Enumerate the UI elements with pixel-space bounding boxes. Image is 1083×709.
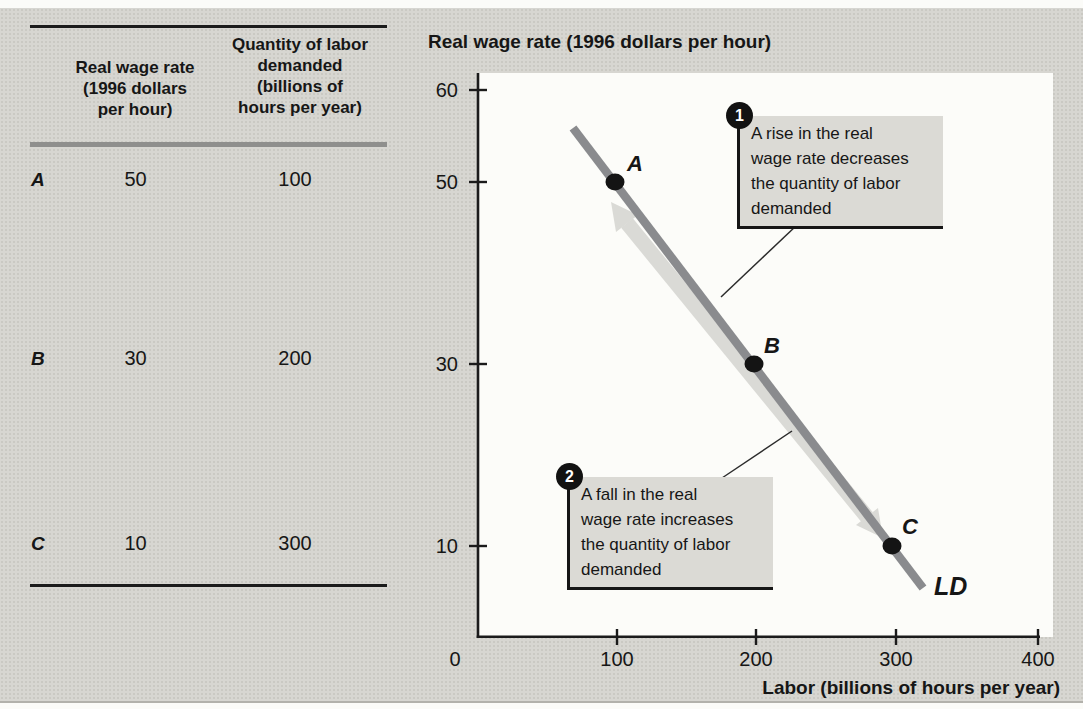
- chart-graphics: [0, 0, 1083, 709]
- y-tick-label: 50: [408, 169, 458, 195]
- point-label-C: C: [895, 514, 925, 540]
- y-tick-label: 30: [408, 351, 458, 377]
- callout-1-text-line: A rise in the real: [751, 121, 943, 146]
- y-tick-label: 60: [408, 77, 458, 103]
- x-axis-title: Labor (billions of hours per year): [700, 677, 1060, 699]
- figure-canvas: Real wage rate (1996 dollars per hour) Q…: [0, 0, 1083, 709]
- callout-2: 2 A fall in the real wage rate increases…: [567, 477, 773, 590]
- callout-1-text-line: demanded: [751, 196, 943, 221]
- callout-1-text-line: the quantity of labor: [751, 171, 943, 196]
- callout-2-text-line: A fall in the real: [581, 482, 773, 507]
- x-tick-label: 200: [716, 646, 796, 672]
- point-label-B: B: [757, 333, 787, 359]
- callout-1-number-badge: 1: [726, 102, 753, 129]
- callout-2-text-line: wage rate increases: [581, 507, 773, 532]
- callout2-leader-line: [722, 431, 792, 478]
- point-C: [883, 538, 902, 555]
- callout-1: 1 A rise in the real wage rate decreases…: [737, 116, 943, 229]
- curve-label-LD: LD: [934, 572, 994, 601]
- point-label-A: A: [620, 151, 650, 177]
- callout-2-text-line: the quantity of labor: [581, 532, 773, 557]
- x-tick-label: 300: [856, 646, 936, 672]
- x-tick-label: 400: [998, 646, 1078, 672]
- chart-title: Real wage rate (1996 dollars per hour): [428, 31, 908, 53]
- origin-label: 0: [415, 646, 495, 672]
- y-tick-label: 10: [408, 533, 458, 559]
- x-tick-label: 100: [577, 646, 657, 672]
- callout-1-text-line: wage rate decreases: [751, 146, 943, 171]
- callout-2-number-badge: 2: [556, 463, 583, 490]
- callout1-leader-line: [721, 225, 797, 297]
- callout-2-text-line: demanded: [581, 557, 773, 582]
